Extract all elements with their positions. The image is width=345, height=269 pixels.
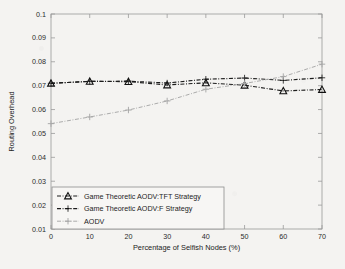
y-axis-title: Routing Overhead — [7, 92, 16, 152]
y-tick-label: 0.1 — [36, 10, 46, 19]
x-tick-label: 10 — [86, 232, 94, 241]
x-axis-title: Percentage of Selfish Nodes (%) — [133, 243, 240, 252]
y-tick-label: 0.03 — [32, 177, 46, 186]
y-tick-label: 0.07 — [32, 81, 46, 90]
x-tick-label: 30 — [163, 232, 171, 241]
y-tick-label: 0.01 — [32, 225, 46, 234]
x-tick-label: 20 — [124, 232, 132, 241]
y-tick-label: 0.05 — [32, 129, 46, 138]
y-tick-label: 0.06 — [32, 105, 46, 114]
series-line-0 — [51, 81, 322, 91]
x-tick-label: 50 — [241, 232, 249, 241]
legend-label-2: AODV — [84, 217, 105, 226]
legend-label-1: Game Theoretic AODV:F Strategy — [84, 204, 193, 213]
routing-overhead-line-chart: 0.010.020.030.040.050.060.070.080.090.10… — [0, 0, 345, 269]
y-tick-label: 0.02 — [32, 201, 46, 210]
y-tick-label: 0.04 — [32, 153, 46, 162]
x-tick-label: 0 — [49, 232, 53, 241]
chart-figure: 0.010.020.030.040.050.060.070.080.090.10… — [0, 0, 345, 269]
legend-label-0: Game Theoretic AODV:TFT Strategy — [84, 192, 201, 201]
x-tick-label: 70 — [318, 232, 326, 241]
y-tick-label: 0.08 — [32, 57, 46, 66]
x-tick-label: 60 — [279, 232, 287, 241]
y-tick-label: 0.09 — [32, 33, 46, 42]
x-tick-label: 40 — [202, 232, 210, 241]
